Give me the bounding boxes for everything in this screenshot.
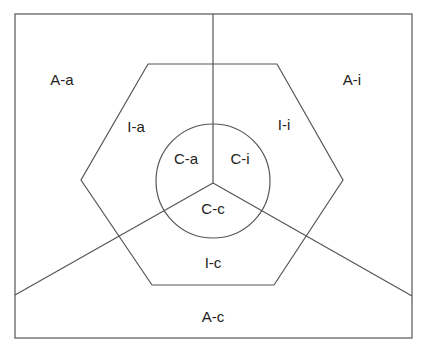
region-diagram: A-a A-i A-c I-a I-i I-c C-a C-i C-c <box>0 0 424 355</box>
label-inner-c: I-c <box>205 254 222 271</box>
label-core-i: C-i <box>230 150 249 167</box>
label-inner-i: I-i <box>278 116 291 133</box>
divider-left <box>15 183 213 295</box>
divider-right <box>213 183 412 296</box>
label-inner-a: I-a <box>127 118 145 135</box>
label-core-c: C-c <box>201 200 225 217</box>
label-core-a: C-a <box>174 150 199 167</box>
label-outer-c: A-c <box>202 308 225 325</box>
label-outer-i: A-i <box>343 71 361 88</box>
middle-hexagon <box>81 64 343 285</box>
label-outer-a: A-a <box>50 71 74 88</box>
